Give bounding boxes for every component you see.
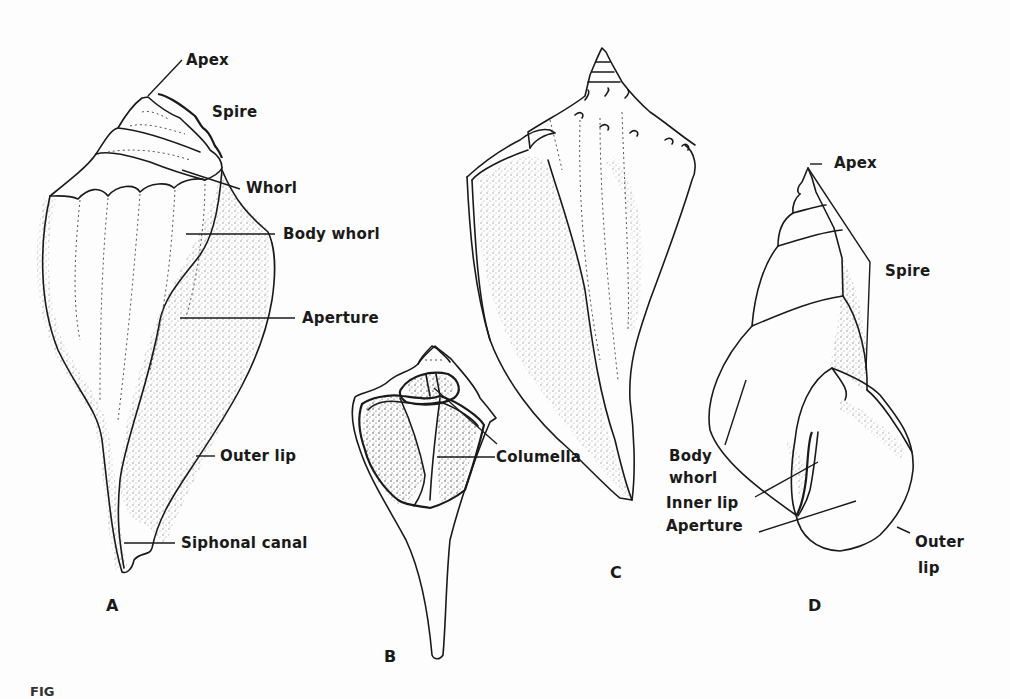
shell-a bbox=[43, 60, 295, 573]
panel-letter-c: C bbox=[610, 563, 622, 582]
label-outer-lip-a: Outer lip bbox=[220, 448, 296, 465]
label-apex-d: Apex bbox=[834, 155, 877, 172]
panel-letter-b: B bbox=[384, 647, 396, 666]
label-outer-lip-d-line2: lip bbox=[918, 560, 940, 577]
label-siphonal-canal-a: Siphonal canal bbox=[181, 535, 308, 552]
label-outer-lip-d-line1: Outer bbox=[915, 534, 964, 551]
label-body-whorl-a: Body whorl bbox=[283, 226, 380, 243]
panel-letter-d: D bbox=[808, 596, 821, 615]
figure-caption-partial: FIG bbox=[30, 684, 54, 699]
shell-b bbox=[352, 346, 497, 659]
label-aperture-a: Aperture bbox=[302, 310, 379, 327]
shell-c bbox=[467, 48, 695, 500]
label-aperture-d: Aperture bbox=[666, 518, 743, 535]
label-spire-d: Spire bbox=[885, 263, 930, 280]
shell-d bbox=[709, 164, 913, 551]
label-inner-lip-d: Inner lip bbox=[666, 495, 739, 512]
label-body-d-line2: whorl bbox=[669, 470, 717, 487]
panel-letter-a: A bbox=[106, 596, 118, 615]
label-apex-a: Apex bbox=[186, 52, 229, 69]
label-body-d-line1: Body bbox=[669, 448, 712, 465]
label-whorl-a: Whorl bbox=[246, 180, 297, 197]
label-spire-a: Spire bbox=[212, 104, 257, 121]
label-columella-b: Columella bbox=[496, 449, 581, 466]
